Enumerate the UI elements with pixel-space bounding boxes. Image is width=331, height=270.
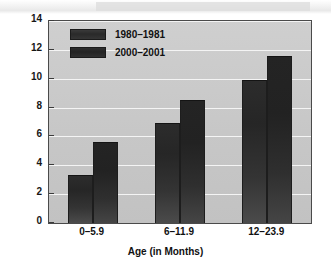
page-top-band-inner xyxy=(96,2,310,11)
y-tick-mark xyxy=(49,164,54,165)
gridline xyxy=(49,21,311,22)
y-tick-mark xyxy=(49,193,54,194)
bar-series2-group1[interactable] xyxy=(93,142,118,223)
x-axis-title: Age (in Months) xyxy=(0,246,331,257)
legend-label-2000-2001: 2000–2001 xyxy=(115,47,165,58)
bar-series1-group2[interactable] xyxy=(155,123,180,223)
y-tick-mark xyxy=(49,135,54,136)
y-tick-mark xyxy=(49,49,54,50)
bar-series2-group3[interactable] xyxy=(267,56,292,223)
y-tick-label: 14 xyxy=(31,13,42,24)
bar-series1-group1[interactable] xyxy=(68,175,93,223)
x-tick-label: 0–5.9 xyxy=(79,226,104,237)
y-tick-label: 2 xyxy=(36,186,42,197)
y-tick-label: 6 xyxy=(36,128,42,139)
y-tick-mark xyxy=(49,222,54,223)
chart-figure: 02468101214 1980–1981 2000–2001 Percenta… xyxy=(0,0,331,270)
y-tick-label: 4 xyxy=(36,157,42,168)
bar-series2-group2[interactable] xyxy=(180,100,205,223)
legend-item[interactable]: 1980–1981 xyxy=(70,27,165,42)
y-tick-label: 10 xyxy=(31,71,42,82)
legend-swatch-2000-2001 xyxy=(70,47,106,58)
x-tick-label: 12–23.9 xyxy=(248,226,284,237)
y-tick-mark xyxy=(49,107,54,108)
plot-area: 02468101214 1980–1981 2000–2001 xyxy=(48,20,312,224)
legend-label-1980-1981: 1980–1981 xyxy=(115,29,165,40)
y-tick-label: 0 xyxy=(36,215,42,226)
x-tick-label: 6–11.9 xyxy=(164,226,194,237)
y-tick-label: 12 xyxy=(31,42,42,53)
legend-item[interactable]: 2000–2001 xyxy=(70,45,165,60)
y-tick-mark xyxy=(49,20,54,21)
y-tick-label: 8 xyxy=(36,100,42,111)
bar-series1-group3[interactable] xyxy=(242,80,267,223)
legend-swatch-1980-1981 xyxy=(70,29,106,40)
y-tick-mark xyxy=(49,78,54,79)
legend: 1980–1981 2000–2001 xyxy=(70,27,165,63)
